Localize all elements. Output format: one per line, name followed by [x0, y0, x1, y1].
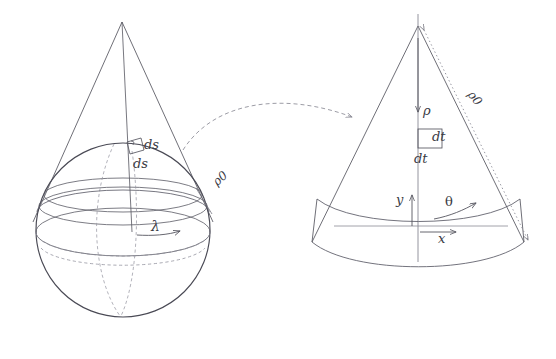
- contact-circle: [37, 190, 209, 212]
- band-edge-left: [312, 199, 317, 242]
- projection-arrow-path: [183, 103, 352, 150]
- label-rho: ρ: [423, 103, 431, 118]
- surface-element-ds: [127, 138, 144, 154]
- label-x-axis: x: [438, 231, 445, 246]
- label-dt-vertical: dt: [414, 151, 428, 166]
- diagram-svg: [0, 0, 556, 359]
- label-dt-horizontal: dt: [432, 129, 446, 144]
- label-ds-parallel: ds: [133, 156, 148, 171]
- meridian-hidden: [97, 144, 137, 316]
- sector-arc-inner: [317, 199, 520, 222]
- theta-arrow: [434, 203, 476, 219]
- label-lambda: λ: [151, 218, 160, 234]
- label-ds-meridional: ds: [144, 137, 159, 152]
- sphere-outline: [36, 143, 210, 317]
- label-y-axis: y: [396, 192, 403, 207]
- right-sector-group: [312, 14, 528, 267]
- cone-outline: [33, 22, 213, 232]
- label-theta: θ: [445, 194, 453, 209]
- figure-canvas: ds ds ρ0 λ ρ ρ0 dt dt y θ x: [0, 0, 556, 359]
- left-sphere-group: [33, 22, 213, 317]
- latitude-circles-hidden: [36, 232, 210, 265]
